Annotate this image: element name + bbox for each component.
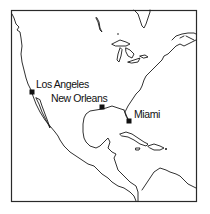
south-america-coast	[142, 168, 196, 190]
small-lake	[117, 33, 119, 35]
puerto-rico	[165, 148, 167, 150]
miami-marker	[127, 119, 132, 124]
new-orleans-label: New Orleans	[51, 93, 107, 104]
miami-label: Miami	[134, 109, 160, 120]
baja-peninsula	[36, 98, 50, 128]
lake-winnipeg	[96, 18, 102, 32]
cuba	[120, 132, 148, 146]
los-angeles-marker	[30, 90, 35, 95]
gulf-coastline	[83, 106, 124, 174]
lake-superior	[112, 40, 130, 46]
central-america-coast	[122, 174, 138, 201]
map	[0, 0, 210, 214]
hispaniola	[148, 144, 164, 150]
new-orleans-marker	[100, 105, 105, 110]
hudson-bay	[134, 10, 150, 28]
lake-huron	[126, 48, 134, 58]
lake-michigan	[117, 48, 122, 62]
lake-erie	[128, 58, 140, 63]
los-angeles-label: Los Angeles	[36, 79, 89, 90]
jamaica	[136, 148, 140, 150]
maritimes-coast	[172, 33, 196, 40]
lake-ontario	[140, 55, 148, 58]
